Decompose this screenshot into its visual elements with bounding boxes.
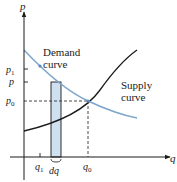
equilibrium-dot — [86, 99, 89, 102]
p0-label: p0 — [5, 95, 15, 108]
dq-label: dq — [49, 165, 59, 176]
demand-curve-label-1: Demand — [43, 46, 81, 58]
q0-label: q0 — [83, 161, 92, 174]
q1-label: q1 — [35, 161, 44, 174]
demand-point-dot — [38, 64, 41, 67]
demand-curve-label-2: curve — [43, 58, 68, 70]
supply-demand-diagram: p q p1 p p0 q1 dq q0 Demand curve Supply… — [0, 0, 177, 182]
supply-curve-label-1: Supply — [121, 79, 153, 91]
dq-brace — [51, 159, 61, 162]
p-label: p — [8, 76, 14, 87]
x-axis-label: q — [170, 152, 176, 164]
y-axis-label: p — [19, 0, 26, 12]
supply-curve-label-2: curve — [121, 91, 146, 103]
